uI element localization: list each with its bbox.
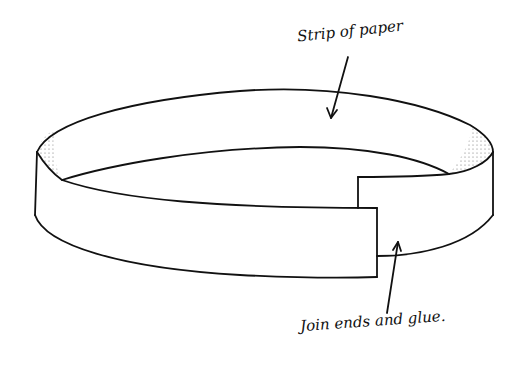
- left-edge: [35, 152, 37, 215]
- outer-top-rim: [37, 89, 493, 152]
- right-stipple: [449, 128, 493, 174]
- arrow-join: [387, 242, 398, 313]
- back-flap-bottom: [377, 215, 493, 256]
- arrow-strip: [331, 57, 348, 118]
- front-top-edge: [37, 152, 377, 208]
- inner-top-rim: [62, 147, 449, 180]
- paper-strip-diagram: Strip of paper Join ends and glue.: [0, 0, 522, 376]
- front-bottom-edge: [35, 215, 377, 278]
